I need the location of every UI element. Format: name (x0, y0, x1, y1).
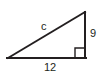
right-angle-marker-icon (75, 48, 85, 58)
hypotenuse-line (8, 12, 85, 58)
hypotenuse-label: c (41, 21, 47, 32)
vertical-leg-label: 9 (90, 28, 96, 39)
right-triangle-figure: c 9 12 (0, 0, 108, 77)
base-label: 12 (44, 62, 56, 73)
